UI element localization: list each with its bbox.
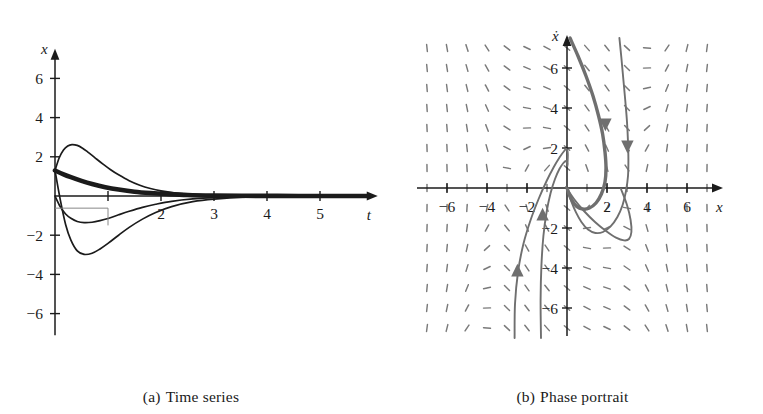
field-segment	[466, 45, 468, 52]
field-segment	[484, 246, 489, 251]
field-segment	[585, 125, 589, 131]
field-segment	[644, 126, 649, 131]
y-tick-label: −4	[27, 266, 44, 283]
y-tick-label: −4	[542, 260, 559, 277]
x-tick-label: 5	[316, 205, 324, 222]
field-segment	[586, 165, 588, 172]
field-segment	[467, 225, 468, 232]
field-segment	[466, 265, 468, 272]
x-tick-label: −6	[439, 198, 456, 215]
caption-time-series: (a)Time series	[0, 388, 382, 406]
x-tick-label: 2	[603, 198, 611, 215]
field-segment	[465, 305, 468, 311]
caption-text-a: Time series	[166, 388, 240, 405]
field-segment	[646, 245, 649, 252]
field-segment	[707, 285, 708, 292]
field-segment	[624, 266, 630, 270]
field-segment	[686, 325, 687, 332]
field-segment	[446, 305, 447, 312]
field-segment	[544, 127, 551, 128]
field-segment	[504, 86, 510, 90]
field-segment	[485, 45, 489, 51]
phase-trajectory	[567, 38, 606, 209]
field-segment	[624, 306, 630, 310]
field-segment	[584, 267, 591, 269]
field-segment	[504, 146, 510, 149]
caption-tag-b: (b)	[516, 388, 535, 405]
field-segment	[605, 45, 609, 50]
field-segment	[644, 107, 650, 110]
field-segment	[584, 306, 590, 309]
field-segment	[686, 85, 687, 92]
field-segment	[687, 265, 688, 272]
field-segment	[466, 85, 468, 92]
field-segment	[486, 145, 488, 152]
x-tick-label: 6	[683, 198, 691, 215]
y-tick-label: 4	[35, 109, 43, 126]
field-segment	[485, 85, 488, 91]
x-axis-arrowhead	[51, 49, 60, 60]
field-segment	[446, 65, 447, 72]
field-segment	[686, 65, 687, 72]
field-segment	[585, 105, 589, 111]
field-segment	[524, 67, 530, 70]
time-series-plot: −6−4−22462345xt	[0, 0, 382, 372]
x-tick-label: 4	[263, 205, 271, 222]
field-segment	[667, 145, 668, 152]
field-segment	[646, 265, 649, 271]
field-segment	[665, 45, 669, 51]
field-segment	[525, 265, 529, 271]
xdot-axis-label: ẋ	[551, 28, 559, 44]
y-tick-label: 4	[550, 100, 558, 117]
x-axis-label: t	[367, 207, 372, 223]
x-axis-label: x	[715, 199, 723, 215]
field-segment	[427, 265, 428, 272]
trajectory-direction-arrow	[621, 141, 633, 154]
field-segment	[466, 125, 467, 132]
field-segment	[687, 245, 688, 252]
field-segment	[447, 245, 448, 252]
field-segment	[544, 46, 550, 49]
field-segment	[644, 87, 651, 88]
field-segment	[484, 328, 491, 329]
field-segment	[584, 326, 590, 329]
caption-text-b: Phase portrait	[540, 388, 628, 405]
field-segment	[544, 87, 550, 90]
field-segment	[584, 247, 591, 248]
field-segment	[666, 105, 668, 112]
field-segment	[466, 105, 467, 112]
field-segment	[686, 305, 687, 312]
field-segment	[467, 145, 468, 152]
field-segment	[427, 65, 428, 72]
field-segment	[504, 167, 511, 168]
field-segment	[504, 126, 510, 130]
field-segment	[465, 325, 469, 331]
y-axis-label: x	[40, 41, 48, 57]
field-segment	[504, 306, 509, 311]
field-segment	[645, 305, 649, 311]
field-segment	[446, 285, 447, 292]
field-segment	[545, 165, 550, 170]
panel-phase-portrait: −6−4−2246−6−4−2246xẋ (b)Phase portrait	[382, 0, 763, 414]
field-segment	[484, 287, 491, 288]
field-segment	[604, 267, 611, 268]
field-segment	[644, 48, 651, 49]
field-segment	[666, 325, 668, 332]
field-segment	[645, 285, 648, 291]
field-segment	[486, 165, 487, 172]
field-segment	[544, 66, 550, 69]
field-segment	[584, 287, 590, 290]
field-segment	[585, 145, 588, 151]
field-segment	[624, 326, 630, 330]
field-segment	[525, 325, 529, 330]
x-tick-label: 3	[210, 205, 218, 222]
field-segment	[427, 285, 428, 292]
field-segment	[466, 285, 469, 291]
field-segment	[446, 45, 447, 52]
field-segment	[624, 246, 630, 250]
x-tick-label: −4	[479, 198, 496, 215]
field-segment	[707, 325, 708, 332]
field-segment	[486, 105, 489, 111]
field-segment	[624, 46, 629, 51]
field-segment	[447, 85, 448, 92]
